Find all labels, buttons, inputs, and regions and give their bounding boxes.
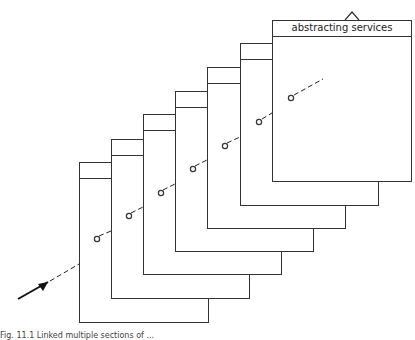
- figure-caption: Fig. 11.1 Linked multiple sections of ..…: [0, 331, 154, 340]
- hole-icon: [94, 236, 99, 241]
- hole-icon: [222, 143, 227, 148]
- thread-segment: [227, 137, 240, 143]
- thread-segment: [195, 160, 207, 166]
- thread-segment: [50, 264, 79, 281]
- hole-icon: [126, 213, 131, 218]
- hole-icon: [190, 166, 195, 171]
- hole-icon: [256, 119, 261, 124]
- tab-notch: [345, 12, 359, 20]
- thread-segment: [131, 207, 143, 213]
- hole-icon: [158, 190, 163, 195]
- thread-segment: [99, 231, 111, 236]
- thread-segment: [163, 184, 175, 190]
- thread-segment: [294, 79, 323, 95]
- hole-icon: [288, 95, 293, 100]
- thread-segment: [262, 113, 272, 119]
